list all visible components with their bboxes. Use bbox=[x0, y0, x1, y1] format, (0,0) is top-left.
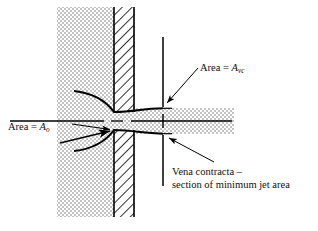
caption-line-1: Vena contracta – bbox=[172, 165, 290, 178]
leader-area-vc bbox=[167, 68, 198, 103]
caption-vena-contracta: Vena contracta – section of minimum jet … bbox=[172, 165, 290, 191]
orifice-vena-contracta-figure: Area = Avc Area = Ao Vena contracta – se… bbox=[0, 0, 318, 231]
label-area-vc-text: Area = bbox=[200, 62, 232, 73]
label-area-o-text: Area = bbox=[8, 121, 40, 132]
figure-canvas bbox=[0, 0, 318, 231]
leader-vena-contracta bbox=[169, 138, 214, 162]
caption-line-2: section of minimum jet area bbox=[172, 178, 290, 191]
label-area-o-subscript: o bbox=[46, 126, 50, 134]
label-area-vena-contracta: Area = Avc bbox=[200, 61, 244, 78]
label-area-orifice: Area = Ao bbox=[8, 120, 50, 137]
label-area-vc-subscript: vc bbox=[238, 67, 244, 75]
